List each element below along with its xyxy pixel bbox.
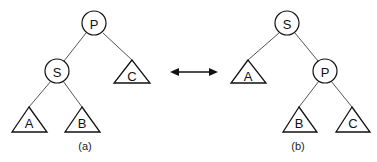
edge-p-s	[64, 33, 86, 61]
edge-p-c	[331, 81, 352, 107]
edge-p-b	[299, 81, 319, 107]
subtree-c: C	[114, 60, 150, 84]
node-s: S	[45, 59, 69, 83]
arrow-head-left	[170, 68, 179, 76]
subtree-b-label: B	[78, 116, 87, 131]
node-p: P	[82, 11, 106, 35]
caption-a: (a)	[78, 140, 91, 152]
subtree-c: C	[336, 107, 370, 132]
subtree-c-label: C	[348, 116, 357, 131]
subtree-a-label: A	[244, 69, 253, 84]
subtree-a: A	[231, 60, 266, 84]
edge-s-a	[248, 33, 279, 60]
subtree-a-label: A	[25, 116, 34, 131]
edge-p-c	[103, 33, 132, 60]
tree-b: S A P B C (b)	[231, 11, 370, 152]
node-p-label: P	[321, 65, 330, 80]
caption-b: (b)	[291, 140, 304, 152]
tree-a: P S C A B (a)	[12, 11, 150, 152]
edge-s-p	[295, 33, 318, 61]
subtree-b: B	[283, 107, 317, 132]
node-s-label: S	[283, 17, 292, 32]
arrow-head-right	[209, 68, 218, 76]
tree-rotation-diagram: P S C A B (a)	[0, 0, 377, 162]
node-s-label: S	[53, 65, 62, 80]
subtree-c-label: C	[127, 69, 136, 84]
node-s: S	[275, 11, 299, 35]
edge-s-b	[63, 81, 82, 107]
node-p: P	[313, 59, 337, 83]
diagram-canvas: P S C A B (a)	[0, 0, 377, 162]
edge-s-a	[29, 81, 51, 107]
subtree-b-label: B	[295, 116, 304, 131]
node-p-label: P	[90, 17, 99, 32]
subtree-a: A	[12, 107, 47, 132]
subtree-b: B	[65, 107, 100, 132]
bidirectional-arrow-icon	[170, 68, 218, 76]
